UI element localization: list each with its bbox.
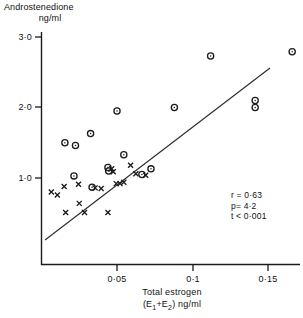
data-point-cross [105,210,110,215]
data-point-cross [82,210,87,215]
data-point-circle-center [210,55,212,57]
data-point-circle-center [75,145,77,147]
data-point-cross [62,184,67,189]
correlation-coefficient-label: r = 0·63 [231,190,267,201]
data-point-cross [55,192,60,197]
x-tick-label-005: 0·05 [97,274,137,284]
data-point-circle-center [291,51,293,53]
data-point-circle-center [116,110,118,112]
data-point-cross [133,171,138,176]
scatter-plot-figure: Androstenedione ng/ml 3·0 2·0 1·0 0·05 0… [0,0,303,318]
data-point-circle-center [90,133,92,135]
data-point-circle-center [254,100,256,102]
axes-group [35,32,300,271]
x-tick-label-01: 0·1 [173,274,213,284]
data-point-circle-center [174,107,176,109]
data-point-cross [77,201,82,206]
data-point-circle-center [73,175,75,177]
x-axis-units-suffix: ) ng/ml [172,299,201,309]
data-point-circle-center [150,168,152,170]
data-point-circle-center [254,107,256,109]
x-axis-units-prefix: (E [143,299,152,309]
data-point-cross [63,210,68,215]
data-point-cross [128,163,133,168]
plot-canvas [0,0,303,318]
p-value-label: p= 4·2 [231,201,267,212]
data-point-cross [76,182,81,187]
data-point-circle-center [141,174,143,176]
data-point-cross [49,190,54,195]
data-point-circle-center [123,154,125,156]
y-tick-label-2: 2·0 [6,102,32,112]
x-tick-label-015: 0·15 [248,274,288,284]
x-axis-label: Total estrogen (E1+E2) ng/ml [92,286,252,314]
y-tick-label-1: 1·0 [6,173,32,183]
data-point-circle-center [91,186,93,188]
t-value-label: t < 0·001 [231,211,267,222]
data-point-circle-center [64,142,66,144]
y-tick-label-3: 3·0 [6,32,32,42]
x-axis-label-name: Total estrogen [92,286,252,298]
data-point-cross [99,186,104,191]
x-axis-units-mid: +E [156,299,168,309]
statistics-annotation: r = 0·63 p= 4·2 t < 0·001 [231,190,267,222]
x-axis-label-units: (E1+E2) ng/ml [92,298,252,314]
data-point-cross [143,173,148,178]
